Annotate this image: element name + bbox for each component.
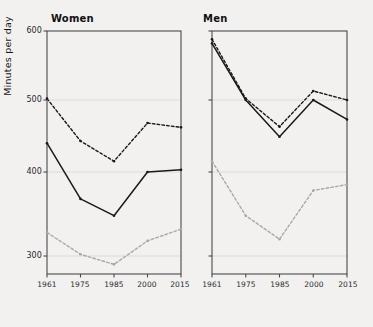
women-panel	[44, 31, 183, 278]
women-dashed-lower-point-2015	[180, 228, 183, 231]
women-dashed-upper	[47, 99, 181, 162]
women-dashed-upper-point-1961	[46, 97, 49, 100]
men-x-tick-1985: 1985	[266, 280, 294, 289]
men-solid	[212, 43, 347, 136]
women-dashed-lower-point-2000	[146, 240, 149, 243]
chart-figure: Minutes per day 600 500 400 300 Women Me…	[0, 0, 373, 327]
men-solid-point-1985	[278, 135, 281, 138]
women-x-tick-1961: 1961	[33, 280, 61, 289]
y-tick-label-500: 500	[16, 95, 42, 104]
men-x-tick-1975: 1975	[232, 280, 260, 289]
women-dashed-upper-point-2015	[180, 126, 183, 129]
men-dashed-lower-point-1961	[211, 160, 214, 163]
men-x-tick-2015: 2015	[334, 280, 362, 289]
women-solid-point-1961	[46, 142, 49, 145]
men-panel	[209, 31, 349, 278]
women-solid-point-2015	[180, 169, 183, 172]
men-solid-point-1975	[244, 99, 247, 102]
women-dashed-lower	[47, 229, 181, 264]
men-solid-point-2015	[346, 118, 349, 121]
men-panel-title: Men	[203, 13, 227, 24]
women-dashed-upper-point-1985	[113, 160, 116, 163]
y-tick-label-300: 300	[16, 251, 42, 260]
men-dashed-upper-point-1985	[278, 125, 281, 128]
plot-frame	[47, 31, 181, 274]
women-dashed-lower-point-1985	[113, 263, 116, 266]
plot-frame	[212, 31, 347, 274]
men-dashed-lower-point-1985	[278, 238, 281, 241]
men-dashed-lower-point-2000	[312, 189, 315, 192]
y-tick-label-600: 600	[16, 26, 42, 35]
men-solid-point-1961	[211, 42, 214, 45]
women-solid-point-2000	[146, 171, 149, 174]
y-axis-label: Minutes per day	[2, 0, 13, 116]
women-solid-point-1975	[79, 198, 82, 201]
women-x-tick-2000: 2000	[133, 280, 161, 289]
men-dashed-lower-point-2015	[346, 183, 349, 186]
men-dashed-upper-point-2015	[346, 99, 349, 102]
women-dashed-lower-point-1975	[79, 253, 82, 256]
men-x-tick-2000: 2000	[300, 280, 328, 289]
men-dashed-upper-point-1961	[211, 38, 214, 41]
men-dashed-upper-point-2000	[312, 90, 315, 93]
women-x-tick-1985: 1985	[100, 280, 128, 289]
men-x-tick-1961: 1961	[198, 280, 226, 289]
women-dashed-lower-point-1961	[46, 231, 49, 234]
women-x-tick-2015: 2015	[166, 280, 194, 289]
women-solid	[47, 143, 181, 215]
chart-plot-area	[0, 0, 373, 327]
women-dashed-upper-point-1975	[79, 140, 82, 143]
men-dashed-lower	[212, 161, 347, 239]
women-panel-title: Women	[51, 13, 94, 24]
women-dashed-upper-point-2000	[146, 122, 149, 125]
men-dashed-lower-point-1975	[244, 214, 247, 217]
men-dashed-upper	[212, 39, 347, 126]
y-tick-label-400: 400	[16, 167, 42, 176]
women-solid-point-1985	[113, 214, 116, 217]
men-solid-point-2000	[312, 99, 315, 102]
women-x-tick-1975: 1975	[66, 280, 94, 289]
